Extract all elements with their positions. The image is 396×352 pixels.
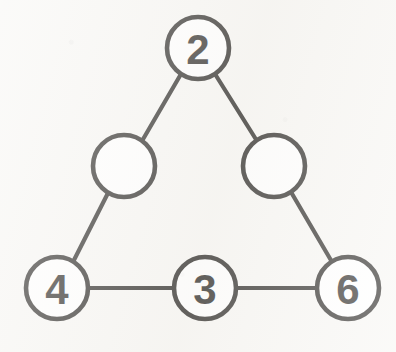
edge-apex-midright — [215, 74, 257, 141]
diagram-canvas: 2 4 3 6 — [0, 0, 396, 352]
node-group: 2 4 3 6 — [26, 17, 379, 319]
node-circle-mid-left[interactable] — [93, 135, 155, 197]
node-mid-left[interactable] — [93, 135, 155, 197]
node-label-bottom-right: 6 — [336, 266, 359, 313]
node-label-bottom-left: 4 — [45, 266, 69, 313]
edge-midleft-bottomleft — [73, 193, 108, 262]
node-bottom-left[interactable]: 4 — [26, 257, 88, 319]
node-circle-mid-right[interactable] — [243, 135, 305, 197]
node-mid-right[interactable] — [243, 135, 305, 197]
edge-midright-bottomright — [291, 192, 332, 262]
node-label-bottom-mid: 3 — [193, 266, 216, 313]
node-bottom-mid[interactable]: 3 — [174, 257, 236, 319]
triangle-graph: 2 4 3 6 — [0, 0, 396, 352]
node-bottom-right[interactable]: 6 — [317, 257, 379, 319]
node-label-apex: 2 — [186, 26, 209, 73]
node-apex[interactable]: 2 — [167, 17, 229, 79]
edge-apex-midleft — [142, 74, 181, 141]
